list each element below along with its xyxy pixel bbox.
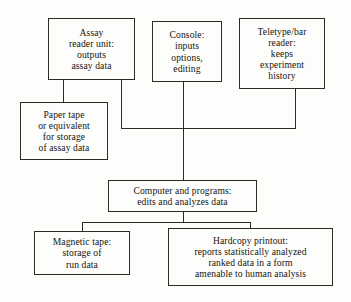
connector-console-to-computer (183, 82, 184, 181)
node-teletype-bar-reader-label: Teletype/bar reader: keeps experiment hi… (255, 26, 308, 82)
node-hardcopy-printout-label: Hardcopy printout: reports statistically… (192, 235, 308, 280)
node-console-label: Console: inputs options, editing (168, 29, 207, 74)
node-assay-reader-unit: Assay reader unit: outputs assay data (48, 18, 135, 80)
node-paper-tape-storage: Paper tape or equivalent for storage of … (20, 102, 108, 160)
node-console: Console: inputs options, editing (152, 21, 222, 82)
node-computer-and-programs: Computer and programs: edits and analyze… (108, 180, 257, 212)
node-computer-and-programs-label: Computer and programs: edits and analyze… (131, 185, 233, 207)
connector-bus-to-magnetic-tape (82, 222, 83, 232)
node-hardcopy-printout: Hardcopy printout: reports statistically… (168, 228, 333, 286)
connector-teletype-to-input-bus (295, 89, 296, 129)
connector-assay-to-input-bus (121, 80, 122, 129)
connector-output-bus (82, 222, 251, 223)
connector-bus-to-hardcopy (250, 222, 251, 229)
connector-input-bus (121, 128, 296, 129)
node-teletype-bar-reader: Teletype/bar reader: keeps experiment hi… (239, 18, 325, 89)
node-magnetic-tape-label: Magnetic tape: storage of run data (51, 236, 114, 269)
flowchart-diagram: Assay reader unit: outputs assay data Co… (0, 0, 351, 302)
connector-assay-to-paper-tape (63, 80, 64, 103)
node-paper-tape-storage-label: Paper tape or equivalent for storage of … (36, 109, 92, 154)
node-magnetic-tape: Magnetic tape: storage of run data (34, 231, 130, 275)
node-assay-reader-unit-label: Assay reader unit: outputs assay data (67, 27, 116, 72)
